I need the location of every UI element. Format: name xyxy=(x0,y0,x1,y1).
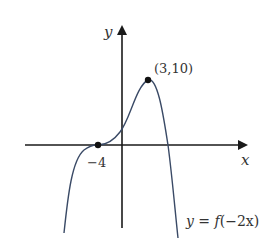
eq-equals: = xyxy=(194,213,215,229)
root-point xyxy=(95,142,101,148)
root-label: −4 xyxy=(87,155,106,170)
function-curve xyxy=(64,80,178,238)
eq-arg: (−2x) xyxy=(220,213,259,229)
max-point xyxy=(145,77,151,83)
max-point-label: (3,10) xyxy=(154,61,193,76)
curve-equation-label: y = f(−2x) xyxy=(185,213,259,229)
x-axis-label: x xyxy=(241,151,250,169)
graph-canvas: y x (3,10) −4 y = f(−2x) xyxy=(0,0,276,251)
y-axis-label: y xyxy=(103,23,113,41)
